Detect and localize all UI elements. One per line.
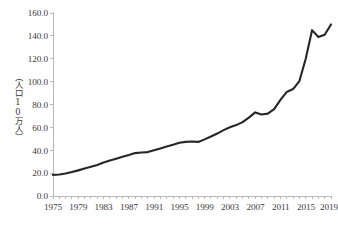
x-tick-label: 1987 bbox=[120, 202, 138, 212]
y-tick-label: 0.0 bbox=[37, 191, 49, 201]
x-tick-label: 1999 bbox=[196, 202, 214, 212]
x-tick-label: 2007 bbox=[247, 202, 265, 212]
y-tick-label: 120.0 bbox=[28, 54, 49, 64]
y-tick-label: 60.0 bbox=[32, 123, 48, 133]
y-tick-label: 140.0 bbox=[28, 31, 49, 41]
x-tick-label: 1979 bbox=[69, 202, 87, 212]
x-tick-label: 1991 bbox=[145, 202, 163, 212]
x-tick-label: 1995 bbox=[171, 202, 189, 212]
x-tick-label: 2015 bbox=[297, 202, 315, 212]
y-tick-label: 160.0 bbox=[28, 8, 49, 18]
x-tick-label: 1983 bbox=[95, 202, 113, 212]
line-chart-plot: 160.0 140.0 120.0 100.0 80.0 60.0 40.0 2… bbox=[0, 0, 338, 231]
y-tick-label: 100.0 bbox=[28, 77, 49, 87]
chart-container: （人口10万人） 160.0 140.0 120.0 100.0 80.0 60… bbox=[0, 0, 338, 231]
y-tick-label: 80.0 bbox=[32, 100, 48, 110]
x-tick-label: 2003 bbox=[221, 202, 239, 212]
x-tick-label: 2019 bbox=[320, 202, 338, 212]
data-series-line bbox=[53, 24, 331, 174]
x-tick-label: 1975 bbox=[44, 202, 62, 212]
y-tick-label: 20.0 bbox=[32, 168, 48, 178]
x-tick-labels: 1975 1979 1983 1987 1991 1995 1999 2003 … bbox=[44, 202, 338, 212]
x-tick-label: 2011 bbox=[272, 202, 290, 212]
y-tick-labels: 160.0 140.0 120.0 100.0 80.0 60.0 40.0 2… bbox=[28, 8, 49, 201]
y-tick-label: 40.0 bbox=[32, 146, 48, 156]
